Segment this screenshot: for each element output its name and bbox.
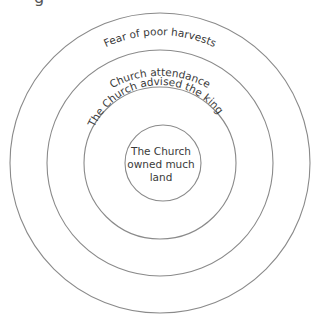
center-label-line: owned much <box>123 158 199 171</box>
center-label: The Church owned much land <box>123 145 199 184</box>
center-label-line: The Church <box>123 145 199 158</box>
label-fear-of-poor-harvests: Fear of poor harvests <box>102 25 219 49</box>
center-label-line: land <box>123 171 199 184</box>
